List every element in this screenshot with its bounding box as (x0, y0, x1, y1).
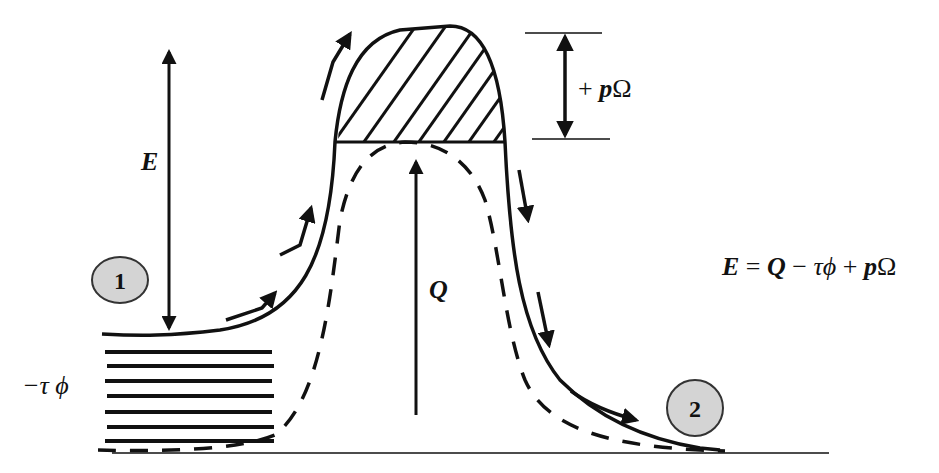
work-label: + pΩ (578, 74, 632, 103)
energy-curve-dashed (98, 142, 725, 451)
flow-arrow-2 (280, 208, 311, 255)
state-1-marker: 1 (92, 257, 148, 303)
heat-label: Q (429, 275, 448, 304)
state-2-marker: 2 (667, 380, 723, 436)
shear-label: −τ ϕ (22, 371, 69, 400)
flow-arrow-4 (519, 170, 528, 220)
shear-energy-stack (105, 352, 274, 441)
svg-text:2: 2 (689, 396, 701, 422)
energy-barrier-diagram: E Q + pΩ −τ ϕ E = Q − τϕ + pΩ 1 2 (0, 0, 939, 473)
svg-text:1: 1 (114, 268, 126, 294)
hatched-work-region (300, 20, 605, 190)
energy-equation: E = Q − τϕ + pΩ (721, 252, 896, 281)
energy-label: E (140, 147, 158, 176)
flow-arrow-5 (538, 292, 549, 345)
